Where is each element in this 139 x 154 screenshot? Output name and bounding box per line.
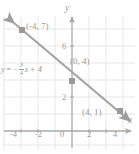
point-label-2: (0, 4)	[70, 57, 90, 66]
equation-fraction: 3 4	[19, 62, 24, 77]
equation-lhs: y	[1, 65, 5, 74]
equation-label: y = − 3 4 x + 4	[1, 62, 42, 77]
fraction-denominator: 4	[19, 69, 24, 77]
x-tick-label-neg4: -4	[10, 130, 17, 139]
marker-point-2	[69, 78, 75, 84]
x-tick-label-2: 2	[87, 130, 91, 139]
marker-point-1	[19, 27, 25, 33]
y-tick-label-2: 2	[62, 93, 66, 102]
point-label-3: (4, 1)	[82, 108, 102, 117]
axes	[4, 17, 131, 148]
equation-constant: + 4	[30, 65, 42, 74]
x-axis-label: x	[128, 116, 132, 126]
fraction-numerator: 3	[19, 62, 24, 69]
y-tick-label-6: 6	[62, 42, 66, 51]
x-tick-label-0: 0	[60, 130, 64, 139]
equation-variable: x	[25, 65, 29, 74]
graph-figure: y = − 3 4 x + 4 (-4, 7) (0, 4) (4, 1) y …	[0, 0, 139, 154]
y-axis-label: y	[65, 4, 69, 14]
equation-equals: =	[6, 65, 12, 74]
point-label-1: (-4, 7)	[26, 22, 49, 31]
equation-minus: −	[13, 65, 19, 74]
coordinate-plane	[0, 0, 139, 154]
x-tick-label-neg2: -2	[35, 130, 42, 139]
marker-point-3	[117, 108, 123, 114]
x-tick-label-4: 4	[113, 130, 117, 139]
